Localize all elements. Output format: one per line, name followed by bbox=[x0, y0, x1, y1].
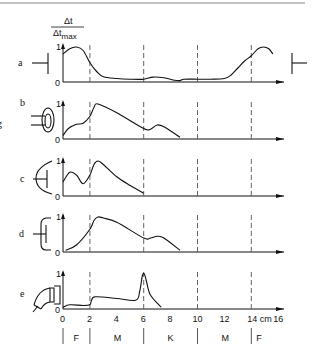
y-label-numerator: Δt bbox=[64, 16, 73, 26]
curve-d bbox=[66, 217, 180, 250]
region-labels: FMKMF bbox=[63, 328, 262, 344]
y-axis-arrow-icon bbox=[61, 43, 65, 49]
y-label-denominator: Δtmax bbox=[53, 28, 77, 41]
y-tick-0: 0 bbox=[55, 78, 60, 88]
panel-letter-e: e bbox=[20, 288, 25, 299]
y-tick-0: 0 bbox=[55, 192, 60, 202]
panel-letter-b: b bbox=[20, 97, 25, 108]
y-tick-0: 0 bbox=[55, 248, 60, 258]
x-tick-label: 16 bbox=[273, 314, 283, 324]
region-label: M bbox=[114, 333, 122, 343]
y-axis-arrow-icon bbox=[61, 213, 65, 219]
x-axis-arrow-icon bbox=[276, 194, 284, 198]
curve-b bbox=[63, 104, 180, 137]
ring-electrode-icon bbox=[31, 108, 54, 132]
electrode-flat-icon bbox=[32, 53, 48, 74]
x-axis-arrow-icon bbox=[276, 250, 284, 254]
region-label: F bbox=[256, 333, 262, 343]
y-axis-label: Δt Δtmax bbox=[51, 16, 84, 41]
panel-d: 10d bbox=[19, 212, 284, 258]
panel-a: 10a bbox=[18, 42, 284, 88]
x-tick-labels: 02468101214 cm16 bbox=[60, 314, 283, 324]
y-tick-1: 1 bbox=[56, 42, 61, 52]
curve-e bbox=[63, 273, 161, 307]
y-tick-0: 0 bbox=[55, 135, 60, 145]
x-tick-label: 10 bbox=[193, 314, 203, 324]
panel-letter-a: a bbox=[18, 57, 23, 68]
x-tick-label: 4 bbox=[114, 314, 119, 324]
x-tick-label: 2 bbox=[87, 314, 92, 324]
x-axis-arrow-icon bbox=[276, 137, 284, 141]
region-label: M bbox=[221, 333, 229, 343]
edge-glyph: g bbox=[0, 118, 2, 129]
y-axis-arrow-icon bbox=[61, 157, 65, 163]
y-tick-1: 1 bbox=[56, 269, 61, 279]
y-tick-1: 1 bbox=[56, 212, 61, 222]
panel-c: 10c bbox=[20, 156, 284, 202]
y-tick-1: 1 bbox=[56, 99, 61, 109]
y-axis-arrow-icon bbox=[61, 270, 65, 276]
curve-c bbox=[63, 161, 144, 193]
y-axis-arrow-icon bbox=[61, 100, 65, 106]
x-tick-label: 0 bbox=[60, 314, 65, 324]
panel-letter-c: c bbox=[20, 173, 25, 184]
panels: 10a10b10c10d10e bbox=[18, 42, 284, 315]
x-axis-arrow-icon bbox=[276, 307, 284, 311]
panel-letter-d: d bbox=[19, 228, 24, 239]
figure: Δt Δtmax 10a10b10c10d10e g 024681012 bbox=[0, 0, 319, 356]
panel-b: 10b bbox=[20, 97, 284, 145]
x-tick-label: 12 bbox=[219, 314, 229, 324]
region-label: K bbox=[168, 333, 174, 343]
bracket-electrode-icon bbox=[33, 218, 51, 250]
x-tick-label: 14 cm bbox=[247, 314, 272, 324]
curve-a bbox=[63, 47, 273, 81]
x-tick-label: 6 bbox=[141, 314, 146, 324]
cup-electrode-icon bbox=[33, 161, 52, 194]
region-label: F bbox=[73, 333, 79, 343]
x-axis-arrow-icon bbox=[276, 80, 284, 84]
electrode-flat-right-icon bbox=[292, 53, 307, 74]
y-tick-1: 1 bbox=[56, 156, 61, 166]
x-tick-label: 8 bbox=[168, 314, 173, 324]
